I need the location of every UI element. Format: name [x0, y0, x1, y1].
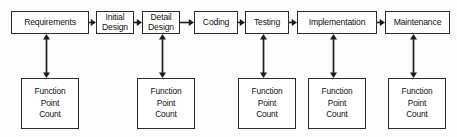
stage-box-implementation: Implementation — [297, 11, 377, 34]
stage-label-maintenance: Maintenance — [394, 18, 442, 27]
stage-box-testing: Testing — [245, 11, 289, 34]
flow-arrow-coding-to-testing — [238, 18, 245, 27]
stage-label-testing: Testing — [254, 18, 280, 27]
count-label-fpc-testing: Function Point Count — [252, 86, 283, 120]
measure-arrow-fpc-detail-design — [158, 34, 167, 78]
count-label-fpc-implementation: Function Point Count — [322, 86, 353, 120]
stage-box-requirements: Requirements — [11, 11, 89, 34]
stage-box-detail-design: Detail Design — [142, 11, 180, 34]
measure-arrow-fpc-testing — [259, 34, 268, 78]
flow-arrow-detail-design-to-coding — [180, 18, 194, 27]
count-box-fpc-detail-design: Function Point Count — [137, 78, 195, 129]
stage-label-detail-design: Detail Design — [143, 13, 179, 31]
flow-arrow-initial-design-to-detail-design — [134, 18, 142, 27]
stage-label-coding: Coding — [203, 18, 229, 27]
measure-arrow-fpc-maintenance — [409, 34, 418, 78]
count-box-fpc-requirements: Function Point Count — [21, 78, 79, 129]
count-box-fpc-maintenance: Function Point Count — [388, 78, 446, 129]
stage-label-initial-design: Initial Design — [97, 13, 133, 31]
count-label-fpc-detail-design: Function Point Count — [151, 86, 182, 120]
count-box-fpc-implementation: Function Point Count — [308, 78, 366, 129]
measure-arrow-fpc-implementation — [329, 34, 338, 78]
count-box-fpc-testing: Function Point Count — [238, 78, 296, 129]
stage-box-coding: Coding — [194, 11, 238, 34]
count-label-fpc-requirements: Function Point Count — [35, 86, 66, 120]
measure-arrow-fpc-requirements — [42, 34, 51, 78]
flow-arrow-requirements-to-initial-design — [89, 18, 96, 27]
stage-box-initial-design: Initial Design — [96, 11, 134, 34]
flow-arrow-implementation-to-maintenance — [377, 18, 385, 27]
stage-label-implementation: Implementation — [309, 18, 366, 27]
stage-box-maintenance: Maintenance — [385, 11, 450, 34]
flow-arrow-testing-to-implementation — [289, 18, 297, 27]
count-label-fpc-maintenance: Function Point Count — [402, 86, 433, 120]
process-flow-diagram: RequirementsInitial DesignDetail DesignC… — [0, 0, 457, 137]
stage-label-requirements: Requirements — [24, 18, 76, 27]
